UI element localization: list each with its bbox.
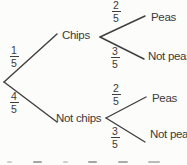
cutoff-text-fragment	[148, 161, 160, 163]
probability-not-chips-denominator: 5	[10, 103, 19, 114]
outcome-label-chips-peas: Peas	[151, 11, 176, 24]
node-label-chips: Chips	[62, 29, 90, 42]
probability-tree-diagram: 1 5 4 5 Chips Not chips 2 5 Peas 3 5 Not…	[0, 0, 187, 165]
probability-not-chips-peas-denominator: 5	[112, 95, 121, 106]
probability-chips: 1 5	[6, 45, 22, 68]
cutoff-text-fragment	[7, 161, 12, 163]
probability-not-chips-not-peas: 3 5	[107, 126, 123, 149]
probability-chips-numerator: 1	[10, 45, 19, 57]
cutoff-text-fragment	[118, 161, 128, 163]
probability-chips-peas-numerator: 2	[112, 0, 121, 12]
cutoff-text-fragment	[33, 161, 42, 163]
probability-not-chips-not-peas-numerator: 3	[111, 126, 120, 138]
probability-chips-not-peas-numerator: 3	[111, 46, 120, 58]
probability-chips-peas: 2 5	[108, 0, 124, 23]
probability-not-chips-not-peas-denominator: 5	[111, 138, 120, 149]
cutoff-text-fragment	[88, 161, 97, 163]
outcome-label-chips-not-peas: Not peas	[148, 50, 187, 63]
probability-not-chips-peas: 2 5	[108, 83, 124, 106]
probability-chips-peas-denominator: 5	[112, 12, 121, 23]
probability-chips-denominator: 5	[10, 57, 19, 68]
outcome-label-not-chips-peas: Peas	[152, 92, 177, 105]
probability-not-chips-numerator: 4	[10, 91, 19, 103]
probability-not-chips-peas-numerator: 2	[112, 83, 121, 95]
probability-not-chips: 4 5	[6, 91, 22, 114]
outcome-label-not-chips-not-peas: Not peas	[150, 128, 187, 141]
node-label-not-chips: Not chips	[56, 112, 101, 125]
probability-chips-not-peas: 3 5	[107, 46, 123, 69]
cutoff-text-fragment	[63, 161, 68, 163]
probability-chips-not-peas-denominator: 5	[111, 58, 120, 69]
